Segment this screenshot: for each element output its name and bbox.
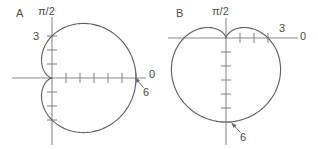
panel-b-label: B — [176, 7, 183, 19]
panel-a-label: A — [16, 7, 24, 19]
panel-b-intercept-label-3: 3 — [279, 22, 285, 34]
panel-a-zero-label: 0 — [149, 68, 155, 80]
panel-b-zero-label: 0 — [300, 30, 306, 42]
polar-cardioid-figure: A π/2 3 0 — [0, 0, 318, 149]
panel-a-intercept-label-3: 3 — [33, 30, 39, 42]
panel-a-max-label-6: 6 — [143, 86, 149, 98]
panel-b: B π/2 3 0 6 — [168, 5, 306, 145]
panel-b-pi-over-2-label: π/2 — [212, 5, 229, 17]
panel-a: A π/2 3 0 — [12, 5, 155, 145]
panel-b-max-label-6: 6 — [240, 131, 246, 143]
panel-a-pi-over-2-label: π/2 — [38, 5, 55, 17]
